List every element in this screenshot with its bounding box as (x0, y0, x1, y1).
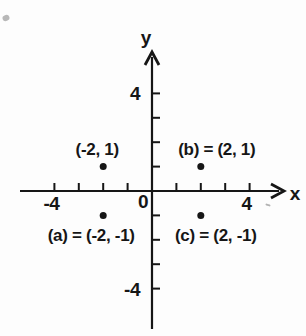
scan-speckle (2, 14, 11, 22)
point-label: (c) = (2, -1) (175, 226, 257, 245)
point-label: (a) = (-2, -1) (48, 226, 135, 245)
point-label: (-2, 1) (76, 140, 119, 159)
y-axis-title: y (141, 27, 152, 48)
x-axis-title: x (290, 183, 301, 204)
y-tick-label: 4 (130, 83, 141, 104)
scan-speckle (265, 203, 270, 206)
artifacts-group (2, 14, 271, 207)
point-dot (197, 163, 204, 170)
axes-group: xy (20, 27, 301, 329)
point-label: (b) = (2, 1) (178, 140, 255, 159)
point-dot (100, 163, 107, 170)
point-dot (197, 212, 204, 219)
origin-label: 0 (138, 191, 148, 212)
point-dot (100, 212, 107, 219)
y-tick-label: -4 (124, 279, 141, 300)
coordinate-plane: xy -444-40 (-2, 1)(b) = (2, 1)(a) = (-2,… (0, 0, 306, 336)
x-tick-label: -4 (43, 193, 60, 214)
x-tick-label: 4 (242, 193, 253, 214)
scanned-coordinate-plane-figure: xy -444-40 (-2, 1)(b) = (2, 1)(a) = (-2,… (0, 0, 306, 336)
